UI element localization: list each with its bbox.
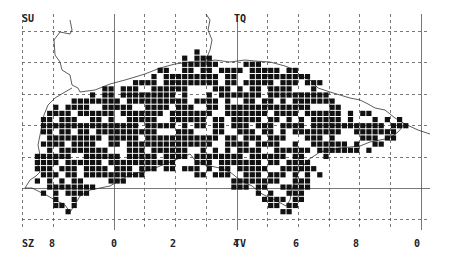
- tetrad-record: [47, 172, 52, 177]
- tetrad-record: [207, 105, 212, 110]
- tetrad-record: [280, 86, 285, 91]
- tetrad-record: [127, 160, 132, 165]
- tetrad-record: [213, 74, 218, 79]
- tetrad-record: [244, 172, 249, 177]
- tetrad-record: [139, 154, 144, 159]
- tetrad-record: [90, 154, 95, 159]
- tetrad-record: [109, 105, 114, 110]
- tetrad-record: [311, 99, 316, 104]
- tetrad-record: [323, 92, 328, 97]
- tetrad-record: [268, 68, 273, 73]
- tetrad-record: [66, 135, 71, 140]
- tetrad-record: [53, 111, 58, 116]
- tetrad-record: [268, 172, 273, 177]
- tetrad-record: [299, 185, 304, 190]
- tetrad-record: [268, 117, 273, 122]
- tetrad-record: [330, 123, 335, 128]
- tetrad-record: [188, 117, 193, 122]
- tetrad-record: [274, 68, 279, 73]
- tetrad-record: [250, 117, 255, 122]
- tetrad-record: [305, 178, 310, 183]
- tetrad-record: [133, 148, 138, 153]
- tetrad-record: [90, 111, 95, 116]
- tetrad-record: [305, 99, 310, 104]
- tetrad-record: [53, 203, 58, 208]
- tetrad-record: [145, 142, 150, 147]
- tetrad-record: [78, 129, 83, 134]
- tetrad-record: [182, 166, 187, 171]
- tetrad-record: [47, 111, 52, 116]
- tetrad-record: [188, 80, 193, 85]
- tetrad-record: [237, 105, 242, 110]
- tetrad-record: [182, 99, 187, 104]
- tetrad-record: [268, 160, 273, 165]
- tetrad-record: [201, 123, 206, 128]
- tetrad-record: [53, 197, 58, 202]
- grid-square-label: SZ: [22, 239, 34, 249]
- tetrad-record: [78, 185, 83, 190]
- tetrad-record: [84, 111, 89, 116]
- tetrad-record: [231, 135, 236, 140]
- tetrad-record: [323, 111, 328, 116]
- tetrad-record: [188, 105, 193, 110]
- tetrad-record: [397, 123, 402, 128]
- tetrad-record: [145, 129, 150, 134]
- tetrad-record: [201, 160, 206, 165]
- tetrad-record: [121, 172, 126, 177]
- tetrad-record: [47, 166, 52, 171]
- tetrad-record: [287, 166, 292, 171]
- tetrad-record: [256, 74, 261, 79]
- tetrad-record: [78, 123, 83, 128]
- tetrad-record: [96, 99, 101, 104]
- tetrad-record: [127, 92, 132, 97]
- tetrad-record: [287, 74, 292, 79]
- tetrad-record: [121, 92, 126, 97]
- tetrad-record: [121, 105, 126, 110]
- tetrad-record: [237, 111, 242, 116]
- tetrad-record: [59, 123, 64, 128]
- tetrad-record: [231, 154, 236, 159]
- tetrad-record: [188, 74, 193, 79]
- tetrad-record: [145, 123, 150, 128]
- tetrad-record: [182, 86, 187, 91]
- tetrad-record: [170, 160, 175, 165]
- tetrad-record: [201, 154, 206, 159]
- tetrad-record: [84, 129, 89, 134]
- tetrad-record: [41, 160, 46, 165]
- tetrad-record: [133, 86, 138, 91]
- tetrad-record: [237, 86, 242, 91]
- tetrad-record: [256, 191, 261, 196]
- tetrad-record: [231, 80, 236, 85]
- tetrad-record: [139, 166, 144, 171]
- tetrad-record: [250, 74, 255, 79]
- tetrad-record: [59, 148, 64, 153]
- tetrad-record: [84, 99, 89, 104]
- tetrad-record: [201, 117, 206, 122]
- tetrad-record: [385, 135, 390, 140]
- tetrad-record: [391, 129, 396, 134]
- tetrad-record: [207, 166, 212, 171]
- tetrad-record: [231, 178, 236, 183]
- tetrad-record: [164, 74, 169, 79]
- tetrad-record: [287, 203, 292, 208]
- tetrad-record: [213, 80, 218, 85]
- tetrad-record: [127, 99, 132, 104]
- tetrad-record: [59, 185, 64, 190]
- tetrad-record: [102, 99, 107, 104]
- tetrad-record: [176, 99, 181, 104]
- tetrad-record: [213, 148, 218, 153]
- tetrad-record: [237, 166, 242, 171]
- tetrad-record: [225, 99, 230, 104]
- tetrad-record: [280, 111, 285, 116]
- tetrad-record: [59, 166, 64, 171]
- tetrad-record: [133, 172, 138, 177]
- tetrad-record: [262, 123, 267, 128]
- tetrad-record: [72, 185, 77, 190]
- tetrad-record: [287, 92, 292, 97]
- tetrad-record: [225, 148, 230, 153]
- tetrad-record: [225, 80, 230, 85]
- tetrad-record: [373, 142, 378, 147]
- tetrad-record: [139, 111, 144, 116]
- tetrad-record: [330, 99, 335, 104]
- tetrad-record: [194, 111, 199, 116]
